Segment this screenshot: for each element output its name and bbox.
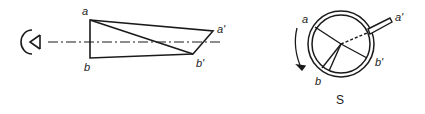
rotation-arrow-icon [295,28,305,70]
left-label-b: b [84,62,90,73]
left-label-a: a [82,6,88,17]
eye-icon [21,30,40,54]
right-label-b-prime: b' [375,57,383,68]
diagram-canvas [0,0,425,114]
right-label-b: b [315,76,321,87]
right-label-a: a [302,14,308,25]
radial-lines [315,27,367,71]
prism [90,20,213,58]
rod [368,18,392,34]
caption-s: S [336,94,344,106]
right-label-a-prime: a' [395,12,403,23]
left-label-a-prime: a' [217,24,225,35]
left-label-b-prime: b' [196,58,204,69]
